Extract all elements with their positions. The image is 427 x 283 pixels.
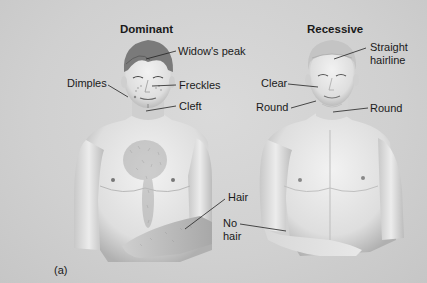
recessive-figure xyxy=(240,40,404,256)
label-hairline: hairline xyxy=(370,54,405,66)
trait-illustration: Dominant Recessive Widow's peak Dimples … xyxy=(0,0,427,283)
label-no: No xyxy=(223,217,237,229)
label-round-cheek: Round xyxy=(256,101,288,113)
dominant-heading: Dominant xyxy=(120,23,173,35)
label-freckles: Freckles xyxy=(179,79,221,91)
label-dimples: Dimples xyxy=(67,77,107,89)
label-widows-peak: Widow's peak xyxy=(178,45,246,57)
label-straight: Straight xyxy=(370,41,408,53)
label-hair: Hair xyxy=(228,191,248,203)
dominant-figure xyxy=(74,40,225,262)
figures-artwork xyxy=(0,0,427,283)
label-clear: Clear xyxy=(261,77,287,89)
label-hair-recessive: hair xyxy=(223,230,241,242)
label-round-chin: Round xyxy=(370,102,402,114)
panel-label: (a) xyxy=(54,264,67,276)
recessive-heading: Recessive xyxy=(307,23,363,35)
label-cleft: Cleft xyxy=(179,100,202,112)
